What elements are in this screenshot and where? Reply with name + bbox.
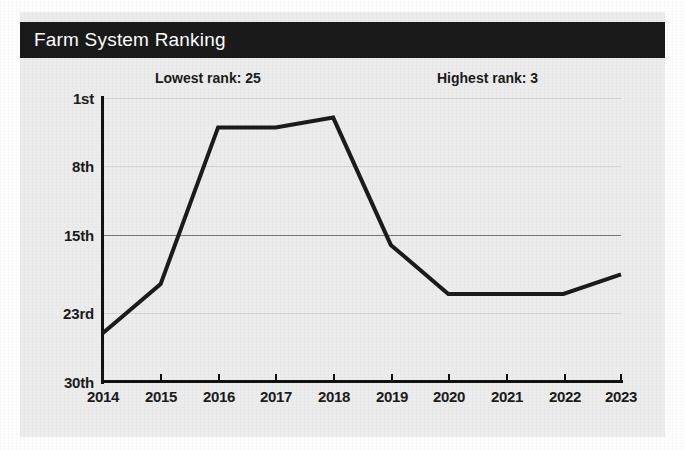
x-tick-label-2021: 2021 <box>479 388 535 405</box>
x-tick-2021 <box>506 374 508 382</box>
x-tick-label-2014: 2014 <box>75 388 131 405</box>
x-tick-label-2023: 2023 <box>593 388 649 405</box>
x-tick-label-2016: 2016 <box>191 388 247 405</box>
x-tick-label-2015: 2015 <box>133 388 189 405</box>
x-tick-2018 <box>333 374 335 382</box>
gridline-1st <box>103 98 621 99</box>
x-tick-2019 <box>391 374 393 382</box>
plot-area <box>103 98 621 382</box>
x-tick-label-2017: 2017 <box>248 388 304 405</box>
page-title: Farm System Ranking <box>20 29 226 51</box>
y-axis <box>101 96 104 384</box>
x-tick-label-2019: 2019 <box>364 388 420 405</box>
x-tick-label-2022: 2022 <box>537 388 593 405</box>
y-tick-label-15th: 15th <box>32 227 94 244</box>
annotation-lowest-rank: Lowest rank: 25 <box>155 70 261 86</box>
annotation-highest-rank: Highest rank: 3 <box>437 70 538 86</box>
gridline-8th <box>103 166 621 167</box>
y-tick-label-23rd: 23rd <box>32 305 94 322</box>
x-tick-2023 <box>620 374 622 382</box>
x-tick-2015 <box>160 374 162 382</box>
gridline-15th <box>103 235 621 236</box>
x-tick-label-2020: 2020 <box>421 388 477 405</box>
gridline-23rd <box>103 313 621 314</box>
y-tick-label-8th: 8th <box>32 158 94 175</box>
x-tick-label-2018: 2018 <box>306 388 362 405</box>
y-tick-label-1st: 1st <box>32 90 94 107</box>
x-tick-2016 <box>218 374 220 382</box>
chart-page: Farm System Ranking Lowest rank: 25 High… <box>0 0 685 450</box>
x-axis <box>101 380 623 383</box>
x-tick-2022 <box>564 374 566 382</box>
x-tick-2017 <box>275 374 277 382</box>
x-tick-2020 <box>448 374 450 382</box>
x-tick-2014 <box>102 374 104 382</box>
title-bar: Farm System Ranking <box>20 22 665 58</box>
